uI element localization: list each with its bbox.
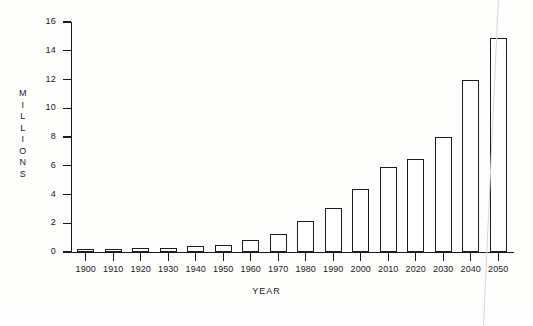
x-axis-tick-label: 2050 — [478, 264, 518, 274]
y-axis-tick-label: 2 — [34, 217, 56, 227]
y-axis-tick-label: 16 — [34, 16, 56, 26]
y-axis-tick-label: 0 — [34, 246, 56, 256]
y-axis-label-letter: I — [16, 134, 30, 146]
x-axis-line — [71, 252, 514, 253]
y-axis-tick — [63, 136, 71, 137]
bar — [270, 234, 287, 252]
x-axis-tick — [443, 253, 444, 261]
bar — [407, 159, 424, 252]
bar — [490, 38, 507, 252]
bar — [132, 248, 149, 252]
y-axis-tick-label: 8 — [34, 131, 56, 141]
bar — [297, 221, 314, 252]
x-axis-tick — [168, 253, 169, 261]
x-axis-tick — [388, 253, 389, 261]
y-axis-label-letter: L — [16, 111, 30, 123]
bar — [462, 80, 479, 253]
bar — [105, 249, 122, 252]
x-axis-tick — [305, 253, 306, 261]
y-axis-tick-label: 10 — [34, 102, 56, 112]
y-axis-label-letter: I — [16, 100, 30, 112]
y-axis-tick — [63, 165, 71, 166]
bar — [242, 240, 259, 252]
x-axis-tick — [140, 253, 141, 261]
y-axis-tick — [63, 50, 71, 51]
x-axis-tick — [470, 253, 471, 261]
y-axis-tick — [63, 79, 71, 80]
y-axis-label-letter: N — [16, 157, 30, 169]
y-axis-tick — [63, 223, 71, 224]
y-axis-label-letter: L — [16, 123, 30, 135]
y-axis-label-letter: O — [16, 146, 30, 158]
bar — [435, 137, 452, 252]
x-axis-tick — [278, 253, 279, 261]
y-axis-tick-label: 6 — [34, 160, 56, 170]
y-axis-tick — [63, 108, 71, 109]
x-axis-tick — [223, 253, 224, 261]
x-axis-tick — [85, 253, 86, 261]
x-axis-tick — [415, 253, 416, 261]
y-axis-tick — [63, 251, 71, 252]
y-axis-tick — [63, 194, 71, 195]
y-axis-tick-label: 4 — [34, 189, 56, 199]
x-axis-tick — [333, 253, 334, 261]
y-axis-tick-label: 12 — [34, 74, 56, 84]
x-axis-tick — [113, 253, 114, 261]
x-axis-label: YEAR — [0, 286, 533, 296]
x-axis-tick — [250, 253, 251, 261]
bar — [352, 189, 369, 252]
y-axis-label-letter: S — [16, 169, 30, 181]
bar — [215, 245, 232, 252]
x-axis-tick — [195, 253, 196, 261]
bar — [77, 249, 94, 252]
bar — [325, 208, 342, 252]
y-axis-label-letter: M — [16, 88, 30, 100]
y-axis-tick — [63, 21, 71, 22]
y-axis-tick-label: 14 — [34, 45, 56, 55]
bar — [187, 246, 204, 252]
bar — [160, 248, 177, 252]
x-axis-tick — [498, 253, 499, 261]
y-axis-label: MILLIONS — [16, 88, 30, 180]
bar — [380, 167, 397, 252]
x-axis-tick — [360, 253, 361, 261]
plot-area — [72, 22, 512, 252]
